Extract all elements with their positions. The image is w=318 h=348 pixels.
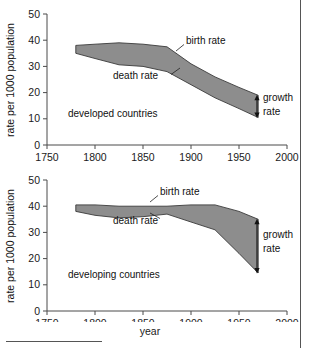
bottom-divider-rule <box>6 341 102 342</box>
x-axis-title: year <box>0 325 300 337</box>
x-tick-marks <box>47 311 287 315</box>
y-tick-marks <box>43 180 47 311</box>
x-tick-label-1800: 1800 <box>83 151 107 163</box>
x-tick-label-1850: 1850 <box>131 317 155 322</box>
band-area-developing <box>76 205 258 273</box>
y-axis-title: rate per 1000 population <box>4 189 16 303</box>
y-tick-label-10: 10 <box>28 278 40 290</box>
y-tick-label-40: 40 <box>28 34 40 46</box>
y-tick-marks <box>43 14 47 145</box>
x-tick-label-1750: 1750 <box>35 317 59 322</box>
right-border-rule <box>300 0 301 348</box>
annotation-growth-rate-line1-developed: growth <box>263 92 293 103</box>
x-tick-label-1950: 1950 <box>227 317 251 322</box>
x-tick-label-1900: 1900 <box>179 151 203 163</box>
birth-rate-leader-line <box>150 196 158 203</box>
annotation-growth-rate-line2-developed: rate <box>263 106 281 117</box>
x-tick-label-1750: 1750 <box>35 151 59 163</box>
chart-panel-developing: 0 10 20 30 40 50 1750 1800 1850 1900 195… <box>0 172 300 322</box>
y-tick-label-50: 50 <box>28 174 40 186</box>
annotation-region-developing: developing countries <box>68 269 160 280</box>
figure-demographic-transition: 0 10 20 30 40 50 1750 1800 1850 1900 195… <box>0 0 318 348</box>
band-area-developed <box>76 43 258 118</box>
chart-svg-developed: 0 10 20 30 40 50 1750 1800 1850 1900 195… <box>0 2 300 170</box>
birth-rate-leader-line <box>176 45 184 52</box>
x-tick-label-1800: 1800 <box>83 317 107 322</box>
y-tick-label-40: 40 <box>28 200 40 212</box>
chart-panel-developed: 0 10 20 30 40 50 1750 1800 1850 1900 195… <box>0 2 300 170</box>
x-tick-label-2000: 2000 <box>275 317 299 322</box>
annotation-growth-rate-line1-developing: growth <box>263 229 293 240</box>
x-tick-label-2000: 2000 <box>275 151 299 163</box>
annotation-death-rate-developing: death rate <box>113 215 158 226</box>
y-tick-label-0: 0 <box>34 305 40 317</box>
annotation-death-rate-developed: death rate <box>113 70 158 81</box>
axis-lines <box>47 14 287 145</box>
annotation-region-developed: developed countries <box>68 108 158 119</box>
y-tick-label-30: 30 <box>28 226 40 238</box>
y-tick-label-30: 30 <box>28 60 40 72</box>
y-tick-label-20: 20 <box>28 252 40 264</box>
annotation-growth-rate-line2-developing: rate <box>263 243 281 254</box>
y-tick-label-50: 50 <box>28 8 40 20</box>
y-tick-label-0: 0 <box>34 139 40 151</box>
y-tick-label-10: 10 <box>28 112 40 124</box>
x-tick-label-1950: 1950 <box>227 151 251 163</box>
annotation-birth-rate-developed: birth rate <box>186 35 226 46</box>
y-axis-title: rate per 1000 population <box>4 23 16 137</box>
annotation-birth-rate-developing: birth rate <box>160 186 200 197</box>
x-tick-label-1900: 1900 <box>179 317 203 322</box>
y-tick-label-20: 20 <box>28 86 40 98</box>
x-tick-label-1850: 1850 <box>131 151 155 163</box>
chart-svg-developing: 0 10 20 30 40 50 1750 1800 1850 1900 195… <box>0 172 300 322</box>
x-tick-marks <box>47 145 287 149</box>
